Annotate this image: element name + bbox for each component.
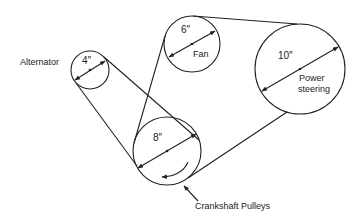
belt-alternator-crank-upper [104,57,199,140]
alternator-label: Alternator [20,57,59,67]
ps-label-line2: steering [298,84,330,94]
crank-diameter: 8″ [153,132,162,143]
fan-diameter: 6″ [181,24,190,35]
belt-fan-crank [134,36,165,143]
belt-ps-crank [188,112,287,178]
ps-center [299,68,302,71]
belt-fan-ps [193,16,297,24]
alternator-diameter: 4″ [82,55,91,66]
belt-alternator-crank-lower [76,83,137,166]
fan-label: Fan [193,49,209,59]
alternator-center [89,69,92,72]
ps-diameter: 10″ [278,50,293,61]
crank-leader-arrow [184,186,198,201]
rotation-arrow [162,162,188,177]
crank-center [166,150,169,153]
crank-label: Crankshaft Pulleys [195,201,270,211]
fan-center [191,43,194,46]
ps-label-line1: Power [299,73,325,83]
